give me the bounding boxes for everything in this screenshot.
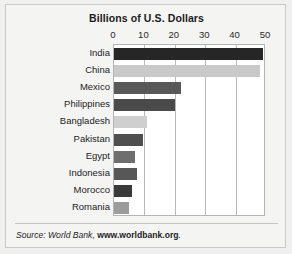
bar-mexico bbox=[114, 82, 181, 94]
category-label-indonesia: Indonesia bbox=[69, 167, 110, 178]
bar-morocco bbox=[114, 185, 132, 197]
bar-bangladesh bbox=[114, 116, 147, 128]
source-note: Source: World Bank, www.worldbank.org. bbox=[16, 230, 181, 240]
bar-romania bbox=[114, 202, 129, 214]
bar-egypt bbox=[114, 151, 135, 163]
x-tick-10: 10 bbox=[138, 29, 149, 40]
category-label-egypt: Egypt bbox=[86, 150, 110, 161]
plot-region bbox=[113, 44, 265, 216]
chart-figure: Billions of U.S. Dollars 01020304050 Ind… bbox=[5, 4, 286, 248]
category-label-china: China bbox=[85, 64, 110, 75]
plot-area bbox=[113, 44, 265, 216]
category-label-bangladesh: Bangladesh bbox=[60, 115, 110, 126]
bar-india bbox=[114, 48, 263, 60]
bar-pakistan bbox=[114, 134, 143, 146]
source-divider bbox=[15, 223, 278, 224]
x-tick-20: 20 bbox=[169, 29, 180, 40]
category-label-romania: Romania bbox=[72, 201, 110, 212]
x-tick-50: 50 bbox=[260, 29, 271, 40]
source-prefix: Source: World Bank, bbox=[16, 230, 97, 240]
worldbank-link[interactable]: www.worldbank.org bbox=[97, 230, 178, 240]
category-label-pakistan: Pakistan bbox=[74, 133, 110, 144]
x-tick-0: 0 bbox=[110, 29, 115, 40]
category-axis-labels: IndiaChinaMexicoPhilippinesBangladeshPak… bbox=[6, 44, 110, 216]
x-tick-40: 40 bbox=[229, 29, 240, 40]
source-suffix: . bbox=[179, 230, 181, 240]
category-label-mexico: Mexico bbox=[80, 81, 110, 92]
category-label-philippines: Philippines bbox=[64, 98, 110, 109]
category-label-india: India bbox=[89, 47, 110, 58]
chart-title: Billions of U.S. Dollars bbox=[6, 12, 287, 24]
bar-indonesia bbox=[114, 168, 137, 180]
bar-philippines bbox=[114, 99, 175, 111]
x-axis-tick-labels: 01020304050 bbox=[113, 29, 265, 43]
bar-china bbox=[114, 65, 260, 77]
x-tick-30: 30 bbox=[199, 29, 210, 40]
category-label-morocco: Morocco bbox=[74, 184, 110, 195]
